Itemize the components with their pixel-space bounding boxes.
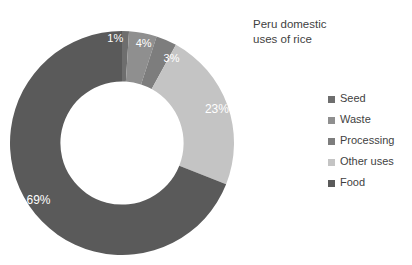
slice-value-label: 3% [164,52,180,64]
donut-slice-layer [10,31,234,255]
legend-item[interactable]: Waste [328,109,412,130]
legend-color-swatch-icon [328,180,335,187]
legend-item-label: Food [340,176,365,189]
legend-item-label: Seed [340,92,366,105]
legend-color-swatch-icon [328,96,335,103]
slice-value-label: 4% [136,37,152,49]
chart-title: Peru domestic uses of rice [253,17,403,47]
donut-plot-area: 1%4%3%23%69% [10,31,234,255]
legend-item-label: Other uses [340,155,394,168]
legend-item-label: Waste [340,113,371,126]
chart-legend: SeedWasteProcessingOther usesFood [328,88,412,193]
donut-svg: 1%4%3%23%69% [10,31,234,255]
legend-item-label: Processing [340,134,394,147]
legend-item[interactable]: Processing [328,130,412,151]
legend-item[interactable]: Food [328,172,412,193]
legend-item[interactable]: Seed [328,88,412,109]
legend-color-swatch-icon [328,138,335,145]
slice-value-label: 23% [205,102,229,116]
slice-value-label: 69% [27,193,51,207]
legend-item[interactable]: Other uses [328,151,412,172]
slice-value-label: 1% [107,32,123,44]
donut-chart-figure: Peru domestic uses of rice 1%4%3%23%69% … [0,0,412,265]
legend-color-swatch-icon [328,117,335,124]
legend-color-swatch-icon [328,159,335,166]
